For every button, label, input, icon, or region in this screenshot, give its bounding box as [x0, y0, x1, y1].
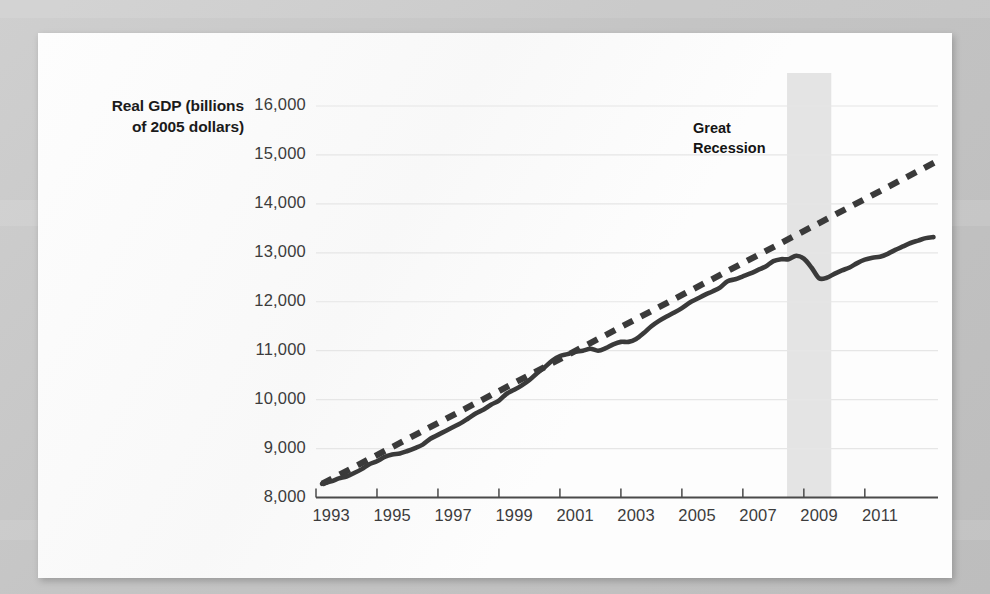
- x-axis-tick-label: 1997: [434, 506, 472, 525]
- x-axis-tick-label: 2001: [556, 506, 594, 525]
- x-axis-tick-label: 1995: [373, 506, 411, 525]
- x-axis-tick-label: 2005: [678, 506, 716, 525]
- gridlines: [316, 106, 938, 449]
- chart-canvas: [38, 33, 952, 578]
- recession-shaded-band: [787, 73, 831, 498]
- screenshot-root: Real GDP (billions of 2005 dollars) 8,00…: [0, 0, 990, 594]
- y-axis-tick-label: 15,000: [220, 144, 306, 163]
- y-axis-tick-label: 8,000: [220, 487, 306, 506]
- y-axis-tick-label: 9,000: [220, 438, 306, 457]
- real-gdp-line-series: [322, 237, 933, 484]
- y-axis-tick-label: 13,000: [220, 242, 306, 261]
- y-axis-tick-label: 16,000: [220, 95, 306, 114]
- y-axis-tick-label: 11,000: [220, 340, 306, 359]
- x-axis-tick-label: 2009: [800, 506, 838, 525]
- x-axis-ticks: [316, 489, 865, 498]
- great-recession-annotation: Great Recession: [693, 119, 766, 158]
- x-axis-tick-label: 1999: [495, 506, 533, 525]
- page-sheet: Real GDP (billions of 2005 dollars) 8,00…: [38, 33, 952, 578]
- trend-line-series: [322, 162, 935, 484]
- y-axis-tick-label: 10,000: [220, 389, 306, 408]
- x-axis-tick-label: 2011: [862, 506, 898, 525]
- y-axis-tick-label: 12,000: [220, 291, 306, 310]
- background-streak-top: [0, 0, 990, 18]
- annotation-line2: Recession: [693, 139, 766, 159]
- x-axis-tick-label: 1993: [312, 506, 350, 525]
- x-axis-tick-label: 2007: [739, 506, 777, 525]
- x-axis-tick-label: 2003: [617, 506, 655, 525]
- annotation-line1: Great: [693, 119, 766, 139]
- y-axis-tick-label: 14,000: [220, 193, 306, 212]
